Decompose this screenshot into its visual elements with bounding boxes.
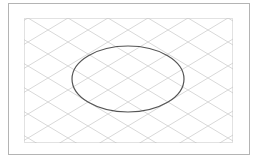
grid-line — [0, 18, 28, 158]
grid-line — [235, 18, 258, 158]
grid-line — [0, 18, 258, 158]
grid-line — [0, 18, 108, 158]
diamond-grid — [0, 18, 258, 158]
grid-line — [0, 18, 258, 158]
grid-line — [0, 18, 188, 158]
grid-line — [0, 18, 21, 158]
grid-line — [148, 18, 258, 158]
grid-line — [0, 18, 101, 158]
grid-line — [155, 18, 258, 158]
inner-dotted-border — [25, 19, 233, 143]
grid-line — [0, 18, 181, 158]
grid-line — [188, 18, 258, 158]
grid-line — [0, 18, 68, 158]
grid-line — [0, 18, 228, 158]
diagram-canvas — [0, 0, 258, 158]
grid-line — [75, 18, 258, 158]
